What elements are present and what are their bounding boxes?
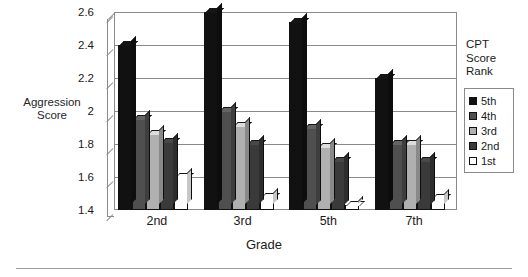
legend-title-line-2: Score: [466, 52, 496, 66]
bar-side-face: [259, 135, 264, 204]
legend-item[interactable]: 3rd: [469, 123, 509, 138]
legend-swatch: [469, 112, 477, 120]
bar: [289, 22, 303, 210]
bar-side-face: [217, 3, 222, 204]
bar-side-face: [388, 69, 393, 204]
bottom-divider: [16, 268, 512, 269]
bar-side-face: [330, 138, 335, 204]
x-tick-label: 5th: [298, 214, 358, 228]
legend-item[interactable]: 1st: [469, 153, 509, 168]
bar-group: [200, 12, 286, 210]
bar-side-face: [416, 135, 421, 204]
bar-side-face: [131, 36, 136, 204]
y-tick-label: 2.2: [68, 72, 94, 84]
legend-swatch: [469, 142, 477, 150]
bar-side-face: [402, 135, 407, 204]
y-tick-label: 2: [68, 105, 94, 117]
bar: [375, 78, 389, 210]
legend-title-line-3: Rank: [466, 65, 496, 79]
bar: [204, 12, 218, 210]
y-tick-label: 2.4: [68, 39, 94, 51]
legend-item-label: 3rd: [481, 125, 497, 137]
bar-side-face: [344, 152, 349, 205]
bar-side-face: [444, 189, 449, 204]
legend-title: CPT Score Rank: [466, 38, 496, 79]
legend-item[interactable]: 4th: [469, 108, 509, 123]
legend-title-line-1: CPT: [466, 38, 496, 52]
plot-area: [114, 12, 457, 210]
bar-side-face: [273, 188, 278, 204]
bar-group: [114, 12, 200, 210]
legend-swatch: [469, 127, 477, 135]
legend-swatch: [469, 157, 477, 165]
legend-item-label: 2nd: [481, 140, 499, 152]
y-tick-label: 1.4: [68, 204, 94, 216]
chart-page: Aggression Score 1.41.61.822.22.42.6 2nd…: [0, 0, 528, 277]
legend-item[interactable]: 5th: [469, 93, 509, 108]
bar-side-face: [430, 152, 435, 205]
x-axis-title: Grade: [0, 237, 528, 252]
y-tick-label: 2.6: [68, 6, 94, 18]
bar-side-face: [159, 125, 164, 204]
bar-side-face: [173, 133, 178, 204]
bar: [345, 205, 359, 210]
bar-side-face: [245, 117, 250, 204]
legend-swatch: [469, 97, 477, 105]
x-tick-label: 2nd: [127, 214, 187, 228]
bar-side-face: [316, 119, 321, 205]
bar-side-face: [302, 13, 307, 204]
bar-side-face: [187, 168, 192, 204]
legend-item[interactable]: 2nd: [469, 138, 509, 153]
bar-top-face: [346, 201, 365, 206]
legend-item-label: 4th: [481, 110, 496, 122]
bar-side-face: [145, 110, 150, 204]
y-tick-label: 1.8: [68, 138, 94, 150]
bar-group: [371, 12, 457, 210]
legend-item-label: 1st: [481, 155, 496, 167]
legend-item-label: 5th: [481, 95, 496, 107]
y-tick-label: 1.6: [68, 171, 94, 183]
legend: 5th4th3rd2nd1st: [464, 88, 514, 173]
x-tick-label: 3rd: [213, 214, 273, 228]
bar-side-face: [231, 102, 236, 204]
bar: [118, 45, 132, 210]
bar-group: [286, 12, 372, 210]
x-tick-label: 7th: [384, 214, 444, 228]
